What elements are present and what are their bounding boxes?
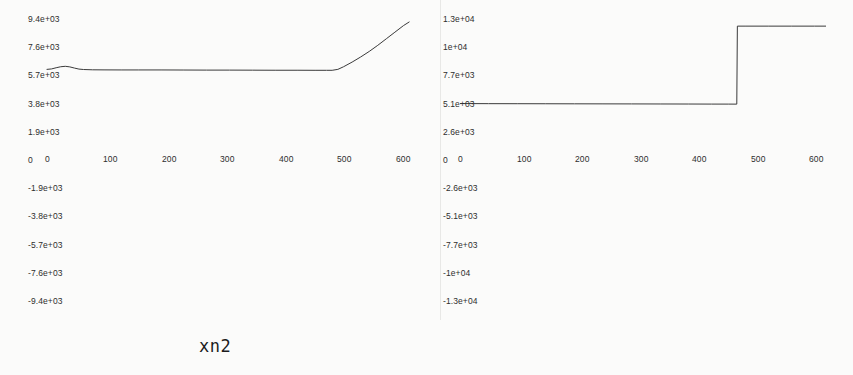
- x-tick-label: 300: [220, 154, 234, 164]
- y-tick-label: 2.6e+03: [443, 127, 475, 137]
- y-tick-label: 5.7e+03: [28, 70, 60, 80]
- plot-area-xn2cs: 1.3e+041e+047.7e+035.1e+032.6e+030-2.6e+…: [440, 0, 853, 320]
- x-tick-label: 400: [279, 154, 293, 164]
- x-tick-label: 200: [575, 154, 589, 164]
- y-tick-label: 1.3e+04: [443, 14, 475, 24]
- x-tick-label: 100: [517, 154, 531, 164]
- x-tick-label: 600: [396, 154, 410, 164]
- y-tick-label: 7.6e+03: [28, 42, 60, 52]
- y-tick-label: -2.6e+03: [443, 183, 478, 193]
- y-tick-label: -1.3e+04: [443, 296, 478, 306]
- figure-page: 9.4e+037.6e+035.7e+033.8e+031.9e+030-1.9…: [0, 0, 853, 375]
- plot-area-xn2: 9.4e+037.6e+035.7e+033.8e+031.9e+030-1.9…: [0, 0, 440, 320]
- y-tick-label: -5.7e+03: [28, 240, 63, 250]
- y-tick-label: 9.4e+03: [28, 14, 60, 24]
- y-tick-label: 0: [28, 155, 33, 165]
- y-tick-label: -7.6e+03: [28, 268, 63, 278]
- y-tick-label: 3.8e+03: [28, 99, 60, 109]
- y-tick-label: 1e+04: [443, 42, 467, 52]
- x-tick-label: 400: [692, 154, 706, 164]
- chart-panel-xn2: 9.4e+037.6e+035.7e+033.8e+031.9e+030-1.9…: [0, 0, 440, 375]
- x-tick-label: 100: [103, 154, 117, 164]
- y-tick-label: -1e+04: [443, 268, 470, 278]
- y-tick-label: 0: [443, 155, 448, 165]
- chart-caption-xn2: xn2: [199, 336, 231, 356]
- y-tick-label: 7.7e+03: [443, 70, 475, 80]
- x-tick-label: 500: [751, 154, 765, 164]
- x-tick-label: 600: [809, 154, 823, 164]
- x-tick-label: 0: [458, 154, 463, 164]
- x-tick-label: 500: [337, 154, 351, 164]
- x-tick-label: 0: [45, 154, 50, 164]
- x-tick-label: 300: [634, 154, 648, 164]
- y-tick-label: -3.8e+03: [28, 211, 63, 221]
- y-tick-label: -7.7e+03: [443, 240, 478, 250]
- y-tick-label: -1.9e+03: [28, 183, 63, 193]
- y-tick-label: -5.1e+03: [443, 211, 478, 221]
- y-tick-label: 5.1e+03: [443, 99, 475, 109]
- chart-panel-xn2cs: 1.3e+041e+047.7e+035.1e+032.6e+030-2.6e+…: [440, 0, 853, 375]
- y-tick-label: 1.9e+03: [28, 127, 60, 137]
- x-tick-label: 200: [162, 154, 176, 164]
- y-tick-label: -9.4e+03: [28, 296, 63, 306]
